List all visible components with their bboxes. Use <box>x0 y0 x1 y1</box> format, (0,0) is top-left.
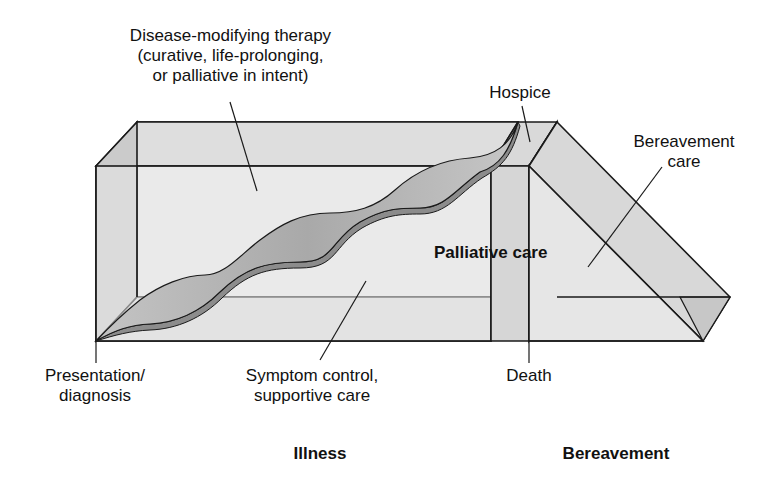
label-line: Disease-modifying therapy <box>108 26 353 46</box>
label-line: care <box>624 152 744 172</box>
label-line: Presentation/ <box>30 366 160 386</box>
label-line: diagnosis <box>30 386 160 406</box>
label-disease-modifying-therapy: Disease-modifying therapy (curative, lif… <box>108 26 353 86</box>
label-line: (curative, life-prolonging, <box>108 46 353 66</box>
label-line: supportive care <box>232 386 392 406</box>
label-line: or palliative in intent) <box>108 66 353 86</box>
label-presentation-diagnosis: Presentation/ diagnosis <box>30 366 160 406</box>
label-death: Death <box>494 366 564 386</box>
label-line: Symptom control, <box>232 366 392 386</box>
label-hospice: Hospice <box>480 83 560 103</box>
label-line: Bereavement <box>624 132 744 152</box>
label-palliative-care: Palliative care <box>434 243 574 263</box>
label-symptom-control: Symptom control, supportive care <box>232 366 392 406</box>
label-bereavement-care: Bereavement care <box>624 132 744 172</box>
label-illness: Illness <box>270 444 370 464</box>
label-bereavement: Bereavement <box>546 444 686 464</box>
